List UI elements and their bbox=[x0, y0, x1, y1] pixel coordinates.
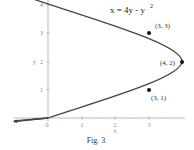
svg-text:1: 1 bbox=[81, 122, 84, 128]
svg-text:1: 1 bbox=[40, 87, 43, 93]
svg-text:2: 2 bbox=[150, 3, 153, 9]
point-3-3: (3, 3) bbox=[147, 22, 171, 35]
figure-caption: Fig. 3 bbox=[87, 136, 106, 145]
svg-text:x: x bbox=[114, 128, 117, 134]
svg-text:3: 3 bbox=[40, 30, 43, 36]
svg-text:2: 2 bbox=[40, 59, 43, 65]
svg-text:(3, 1): (3, 1) bbox=[151, 94, 167, 102]
svg-text:x = 4y - y: x = 4y - y bbox=[110, 5, 146, 15]
equation-label: x = 4y - y 2 bbox=[110, 3, 153, 15]
parabola-chart: 0 1 2 3 x 1 2 3 4 y x = 4y - y 2 (3, 3) … bbox=[0, 0, 194, 150]
svg-text:3: 3 bbox=[148, 122, 151, 128]
arrow-left-icon bbox=[13, 120, 17, 124]
svg-text:y: y bbox=[33, 59, 36, 65]
svg-text:(3, 3): (3, 3) bbox=[155, 22, 171, 30]
x-ticks: 0 1 2 3 x bbox=[46, 116, 167, 134]
y-ticks: 1 2 3 4 y bbox=[33, 2, 50, 93]
svg-text:4: 4 bbox=[40, 2, 43, 8]
svg-text:(4, 2): (4, 2) bbox=[160, 59, 176, 67]
svg-text:0: 0 bbox=[46, 122, 49, 128]
point-3-1: (3, 1) bbox=[147, 88, 167, 102]
